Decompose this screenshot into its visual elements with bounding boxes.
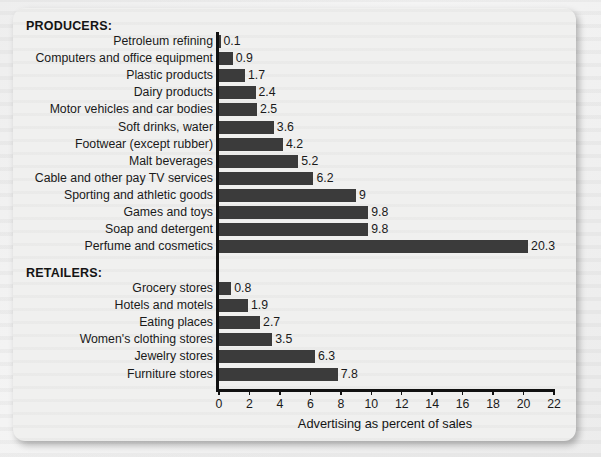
chart-panel: PRODUCERS: RETAILERS: Petroleum refining…: [13, 8, 576, 441]
x-axis-tick-label: 10: [364, 397, 378, 411]
bar: [219, 121, 274, 134]
bar-value-label: 3.5: [275, 332, 292, 346]
x-axis-tick-label: 14: [425, 397, 439, 411]
bar-row: Dairy products2.4: [13, 86, 576, 99]
bar: [219, 155, 298, 168]
bar-category-label: Petroleum refining: [113, 34, 213, 48]
bar-row: Computers and office equipment0.9: [13, 52, 576, 65]
bar: [219, 282, 231, 295]
bar-value-label: 7.8: [341, 367, 358, 381]
bar: [219, 240, 528, 253]
x-axis-tick-label: 0: [216, 397, 223, 411]
bar: [219, 333, 272, 346]
bar-value-label: 4.2: [286, 137, 303, 151]
bar-chart-plot: Petroleum refining0.1Computers and offic…: [13, 8, 576, 441]
x-axis-tick: [553, 389, 555, 395]
bar-category-label: Perfume and cosmetics: [85, 239, 214, 253]
bar-category-label: Hotels and motels: [115, 298, 213, 312]
bar: [219, 350, 315, 363]
bar-category-label: Dairy products: [134, 85, 213, 99]
x-axis-tick: [249, 389, 251, 395]
bar-category-label: Grocery stores: [132, 281, 213, 295]
bar-value-label: 2.7: [263, 315, 280, 329]
bar-value-label: 20.3: [531, 239, 555, 253]
bar-row: Petroleum refining0.1: [13, 35, 576, 48]
bar-category-label: Malt beverages: [129, 154, 213, 168]
x-axis-tick-label: 16: [456, 397, 470, 411]
bar: [219, 35, 221, 48]
x-axis-tick: [492, 389, 494, 395]
x-axis-tick-label: 12: [395, 397, 409, 411]
bar-category-label: Jewelry stores: [134, 349, 213, 363]
x-axis-tick-label: 8: [337, 397, 344, 411]
bar: [219, 52, 233, 65]
x-axis-line: [216, 389, 554, 392]
bar-value-label: 1.7: [248, 68, 265, 82]
x-axis-tick: [431, 389, 433, 395]
x-axis-tick-label: 4: [276, 397, 283, 411]
bar-row: Soap and detergent9.8: [13, 223, 576, 236]
bar-value-label: 1.9: [251, 298, 268, 312]
x-axis-tick-label: 18: [486, 397, 500, 411]
bar: [219, 223, 368, 236]
bar-row: Motor vehicles and car bodies2.5: [13, 103, 576, 116]
x-axis-tick: [218, 389, 220, 395]
x-axis-tick: [401, 389, 403, 395]
bar: [219, 172, 313, 185]
bar-value-label: 0.8: [234, 281, 251, 295]
bar-row: Sporting and athletic goods9: [13, 189, 576, 202]
bar-value-label: 9.8: [371, 205, 388, 219]
bar-row: Soft drinks, water3.6: [13, 121, 576, 134]
x-axis-tick: [371, 389, 373, 395]
bar-value-label: 2.4: [259, 85, 276, 99]
bar: [219, 69, 245, 82]
x-axis-tick-label: 6: [307, 397, 314, 411]
bar: [219, 86, 256, 99]
bar-category-label: Sporting and athletic goods: [64, 188, 213, 202]
bar-category-label: Soft drinks, water: [118, 120, 213, 134]
bar-category-label: Games and toys: [123, 205, 213, 219]
bar-row: Jewelry stores6.3: [13, 350, 576, 363]
x-axis-tick-label: 22: [547, 397, 561, 411]
bar-value-label: 0.1: [224, 34, 241, 48]
x-axis-tick: [340, 389, 342, 395]
bar-category-label: Eating places: [139, 315, 213, 329]
x-axis-tick-label: 2: [246, 397, 253, 411]
bar-row: Perfume and cosmetics20.3: [13, 240, 576, 253]
x-axis-tick: [310, 389, 312, 395]
bar: [219, 316, 260, 329]
bar: [219, 138, 283, 151]
bar-row: Malt beverages5.2: [13, 155, 576, 168]
bar: [219, 368, 338, 381]
bar-category-label: Cable and other pay TV services: [35, 171, 213, 185]
bar-row: Plastic products1.7: [13, 69, 576, 82]
bar-row: Women's clothing stores3.5: [13, 333, 576, 346]
bar-value-label: 9.8: [371, 222, 388, 236]
y-axis-line: [216, 32, 219, 391]
bar-category-label: Soap and detergent: [105, 222, 213, 236]
bar-row: Furniture stores7.8: [13, 368, 576, 381]
bar-row: Footwear (except rubber)4.2: [13, 138, 576, 151]
bar-category-label: Furniture stores: [127, 367, 213, 381]
x-axis-tick: [462, 389, 464, 395]
bar-value-label: 6.3: [318, 349, 335, 363]
bar-value-label: 5.2: [301, 154, 318, 168]
x-axis-tick: [523, 389, 525, 395]
bar-row: Games and toys9.8: [13, 206, 576, 219]
bar-row: Grocery stores0.8: [13, 282, 576, 295]
bar-category-label: Computers and office equipment: [35, 51, 213, 65]
bar-value-label: 3.6: [277, 120, 294, 134]
bar-category-label: Motor vehicles and car bodies: [50, 102, 213, 116]
x-axis-title: Advertising as percent of sales: [216, 416, 554, 431]
bar-row: Hotels and motels1.9: [13, 299, 576, 312]
bar-value-label: 0.9: [236, 51, 253, 65]
bar: [219, 189, 356, 202]
bar-category-label: Women's clothing stores: [80, 332, 213, 346]
bar-category-label: Footwear (except rubber): [75, 137, 213, 151]
x-axis-tick-label: 20: [517, 397, 531, 411]
bar: [219, 299, 248, 312]
bar-row: Eating places2.7: [13, 316, 576, 329]
bar-value-label: 6.2: [316, 171, 333, 185]
bar: [219, 206, 368, 219]
bar-category-label: Plastic products: [126, 68, 213, 82]
